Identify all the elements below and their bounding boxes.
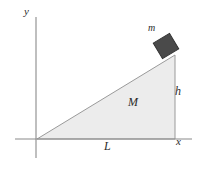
incline-diagram-svg xyxy=(0,0,202,185)
block-mass-label: m xyxy=(148,23,155,33)
y-axis-label: y xyxy=(24,6,29,17)
base-length-label: L xyxy=(104,140,111,152)
physics-diagram-incline: y x L M h m xyxy=(0,0,202,185)
wedge-triangle xyxy=(37,55,175,139)
x-axis-label: x xyxy=(176,136,181,147)
height-label: h xyxy=(175,85,181,97)
wedge-mass-label: M xyxy=(128,96,138,108)
